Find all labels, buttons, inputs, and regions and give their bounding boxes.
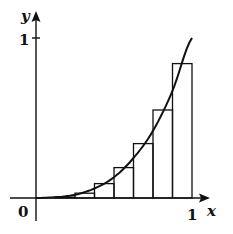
y-tick-label-1: 1 bbox=[19, 31, 29, 49]
y-axis-label: y bbox=[20, 7, 31, 25]
riemann-sum-chart: y 1 0 1 x bbox=[0, 0, 233, 234]
rectangle-5 bbox=[114, 168, 134, 198]
origin-label: 0 bbox=[18, 203, 28, 221]
rectangle-7 bbox=[153, 110, 173, 198]
rectangle-4 bbox=[95, 184, 115, 198]
approximating-rectangles bbox=[56, 64, 193, 198]
x-axis-label: x bbox=[206, 202, 217, 220]
rectangle-6 bbox=[134, 144, 154, 198]
x-tick-label-1: 1 bbox=[187, 206, 197, 224]
